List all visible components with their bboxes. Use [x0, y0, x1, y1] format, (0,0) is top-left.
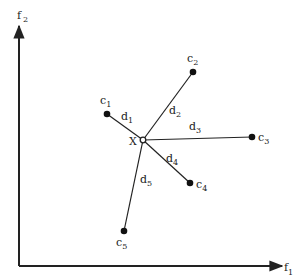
cluster-point-c2	[190, 69, 197, 76]
x-axis-label: f1	[284, 261, 293, 277]
distance-label-d4: d4	[166, 152, 178, 167]
distance-label-d2: d2	[169, 104, 181, 119]
cluster-point-c4	[187, 180, 194, 187]
cluster-point-c3	[249, 134, 256, 141]
query-point-x	[140, 137, 146, 143]
distance-line-d3	[143, 137, 252, 140]
query-point-label: X	[129, 135, 137, 148]
distance-label-d3: d3	[189, 120, 201, 135]
distance-label-d1: d1	[121, 110, 133, 125]
cluster-label-c1: c1	[100, 94, 111, 109]
cluster-label-c5: c5	[116, 236, 127, 251]
cluster-label-c2: c2	[187, 52, 198, 67]
feature-space-diagram: f1 f2 X c1 c2 c3 c4 c5 d1 d2 d3 d4 d5	[0, 0, 294, 280]
cluster-label-c3: c3	[258, 131, 269, 146]
cluster-label-c4: c4	[196, 178, 207, 193]
distance-line-d2	[143, 72, 193, 140]
distance-label-d5: d5	[140, 173, 152, 188]
y-axis-label: f2	[17, 9, 28, 24]
cluster-point-c5	[121, 228, 128, 235]
cluster-point-c1	[104, 111, 111, 118]
